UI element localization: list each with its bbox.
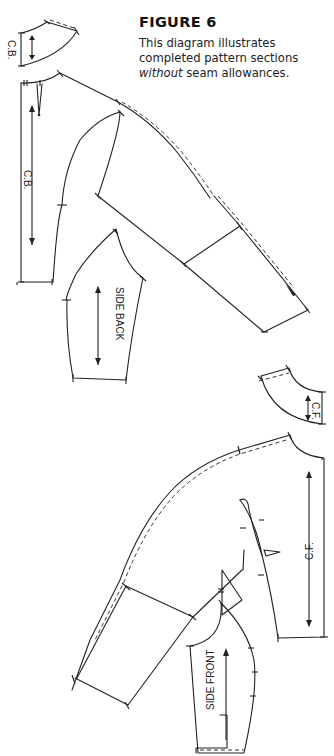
side-back-piece: SIDE BACK [62,229,146,384]
back-collar-piece: C.B. [6,20,79,66]
back-collar-cb-label: C.B. [6,40,17,59]
side-front-piece: SIDE FRONT [186,600,258,753]
center-front-piece: C.F. [72,432,328,709]
front-collar-cf-label: C.F. [310,402,321,420]
center-back-label: C.B. [22,170,33,189]
pattern-diagram: C.B. C.B. [0,0,334,756]
center-front-label: C.F. [304,542,315,560]
back-sleeve-piece [57,110,310,332]
side-back-label: SIDE BACK [114,287,125,341]
front-collar-piece: C.F. [258,365,326,424]
center-back-piece: C.B. [17,70,214,285]
side-front-label: SIDE FRONT [205,649,216,710]
